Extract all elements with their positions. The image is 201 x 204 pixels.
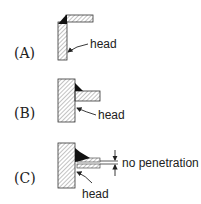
horizontal-plate xyxy=(75,91,100,101)
head-leader-arrow xyxy=(68,44,88,52)
horizontal-plate-lower xyxy=(77,164,100,168)
head-leader-arrow xyxy=(77,108,96,115)
weld-fillet xyxy=(75,83,83,91)
weld-head-diagram: (A) head (B) head (C) xyxy=(0,0,201,204)
head-leader-arrow xyxy=(77,172,92,183)
head-label: head xyxy=(98,108,125,122)
figure-b: (B) head xyxy=(14,79,125,122)
figure-a: (A) head xyxy=(14,15,117,61)
no-penetration-label: no penetration xyxy=(122,156,199,170)
weld-fillet xyxy=(58,15,67,24)
figure-c: (C) no penetration head xyxy=(14,143,199,201)
figure-c-label: (C) xyxy=(14,170,36,186)
vertical-plate xyxy=(58,22,67,60)
figure-a-label: (A) xyxy=(14,45,35,61)
head-label: head xyxy=(90,37,117,51)
head-label: head xyxy=(82,187,109,201)
vertical-plate xyxy=(58,79,75,122)
vertical-plate xyxy=(58,143,75,188)
figure-b-label: (B) xyxy=(14,105,35,121)
horizontal-plate xyxy=(66,15,93,22)
